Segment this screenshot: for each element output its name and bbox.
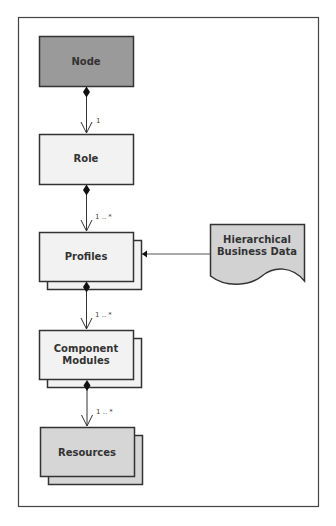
node-label: Node bbox=[71, 56, 100, 67]
multiplicity-label: 1 .. * bbox=[95, 311, 112, 319]
profiles-label: Profiles bbox=[65, 251, 108, 262]
document-label-line2: Business Data bbox=[217, 246, 297, 257]
resources-box: Resources bbox=[41, 428, 143, 485]
diagram-canvas: Node Role Profiles Component Modules Res… bbox=[0, 0, 336, 526]
multiplicity-label: 1 .. * bbox=[95, 213, 112, 221]
multiplicity-label: 1 bbox=[96, 117, 100, 125]
multiplicity-label: 1 .. * bbox=[96, 408, 113, 416]
resources-label: Resources bbox=[58, 447, 116, 458]
document-label-line1: Hierarchical bbox=[223, 234, 291, 245]
profiles-box: Profiles bbox=[40, 233, 142, 290]
component-modules-label-line1: Component bbox=[54, 343, 119, 354]
role-box: Role bbox=[40, 135, 134, 185]
component-modules-label-line2: Modules bbox=[62, 355, 109, 366]
component-modules-box: Component Modules bbox=[40, 331, 142, 388]
role-label: Role bbox=[74, 153, 99, 164]
node-box: Node bbox=[40, 37, 134, 87]
